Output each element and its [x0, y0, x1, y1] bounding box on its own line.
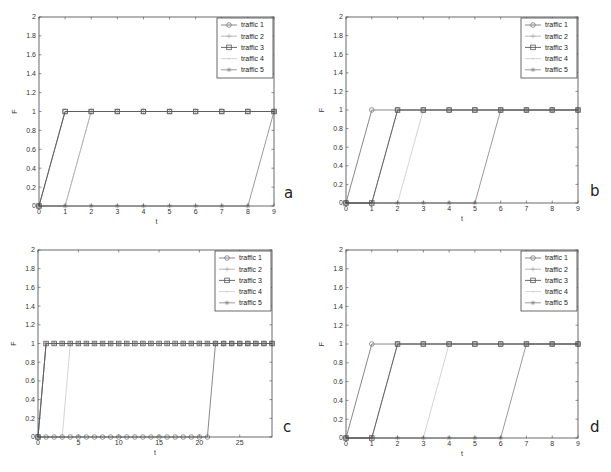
series-line	[38, 344, 272, 438]
x-tick-label: 20	[195, 439, 203, 446]
series-traffic-5	[344, 342, 581, 441]
dot-marker-icon	[532, 58, 534, 60]
x-tick-label: 5	[473, 205, 477, 212]
x-tick-label: 4	[447, 440, 451, 447]
x-tick-label: 10	[115, 439, 123, 446]
x-tick-label: 6	[499, 440, 503, 447]
y-tick-label: 0.4	[333, 397, 343, 404]
y-tick-label: 0.2	[333, 416, 343, 423]
y-tick-label: 1.2	[333, 88, 343, 95]
x-tick-label: 7	[220, 208, 224, 215]
x-tick-label: 6	[499, 205, 503, 212]
legend-label: traffic 5	[241, 66, 264, 73]
series-traffic-2	[344, 342, 581, 441]
dot-marker-icon	[228, 58, 230, 60]
x-tick-label: 9	[576, 440, 580, 447]
dot-marker-icon	[226, 291, 228, 293]
x-tick-label: 3	[421, 440, 425, 447]
series-traffic-3	[344, 342, 581, 441]
series-traffic-3	[36, 341, 275, 439]
series-line	[39, 112, 274, 207]
y-tick-label: 1.8	[26, 32, 36, 39]
y-tick-label: 0	[339, 199, 343, 206]
series-line	[38, 344, 272, 438]
legend-label: traffic 5	[545, 66, 568, 73]
x-tick-label: 2	[89, 208, 93, 215]
legend-label: traffic 4	[545, 288, 568, 295]
x-axis-label: t	[156, 218, 158, 225]
legend-label: traffic 3	[545, 44, 568, 51]
x-tick-label: 0	[36, 439, 40, 446]
series-line	[38, 344, 272, 438]
x-tick-label: 0	[37, 208, 41, 215]
y-tick-label: 0.8	[26, 127, 36, 134]
y-tick-label: 0.6	[25, 377, 35, 384]
y-tick-label: 1.4	[333, 69, 343, 76]
legend: traffic 1traffic 2traffic 3traffic 4traf…	[215, 251, 271, 311]
x-tick-label: 4	[141, 208, 145, 215]
legend-label: traffic 1	[545, 254, 568, 261]
chart-panel-a: 012345678900.20.40.60.811.21.41.61.82tFt…	[11, 13, 293, 225]
series-traffic-5	[36, 341, 275, 439]
y-tick-label: 0.4	[25, 396, 35, 403]
panel-letter: b	[590, 182, 600, 200]
series-traffic-1	[344, 342, 581, 441]
y-tick-label: 1.8	[333, 32, 343, 39]
series-line	[346, 110, 578, 203]
y-tick-label: 1	[32, 108, 36, 115]
y-tick-label: 2	[339, 13, 343, 20]
legend-label: traffic 3	[545, 277, 568, 284]
x-tick-label: 2	[396, 205, 400, 212]
series-traffic-3	[344, 108, 581, 206]
legend-label: traffic 5	[239, 299, 262, 306]
x-tick-label: 3	[115, 208, 119, 215]
chart-panel-b: 012345678900.20.40.60.811.21.41.61.82tFt…	[318, 13, 600, 222]
x-tick-label: 4	[447, 205, 451, 212]
y-tick-label: 0.2	[333, 181, 343, 188]
y-tick-label: 0.2	[25, 415, 35, 422]
x-tick-label: 2	[396, 440, 400, 447]
legend-label: traffic 1	[239, 254, 262, 261]
x-tick-label: 1	[63, 208, 67, 215]
series-traffic-5	[344, 108, 581, 206]
y-tick-label: 1.6	[26, 51, 36, 58]
x-axis-label: t	[154, 449, 156, 456]
y-tick-label: 0.6	[26, 146, 36, 153]
x-axis-label: t	[461, 215, 463, 222]
legend-label: traffic 1	[241, 21, 264, 28]
y-tick-label: 2	[31, 246, 35, 253]
legend-label: traffic 2	[241, 33, 264, 40]
series-line	[346, 110, 578, 203]
y-tick-label: 1.6	[25, 284, 35, 291]
series-line	[39, 112, 274, 207]
series-line	[346, 344, 578, 438]
legend-label: traffic 4	[239, 288, 262, 295]
chart-panel-c: 051015202500.20.40.60.811.21.41.61.82tFt…	[10, 246, 291, 456]
series-traffic-4	[37, 343, 273, 438]
y-tick-label: 1.4	[25, 303, 35, 310]
y-tick-label: 1.6	[333, 284, 343, 291]
series-traffic-1	[37, 109, 277, 208]
x-tick-label: 1	[370, 440, 374, 447]
figure-canvas: 012345678900.20.40.60.811.21.41.61.82tFt…	[0, 0, 611, 472]
series-traffic-2	[37, 109, 277, 208]
legend: traffic 1traffic 2traffic 3traffic 4traf…	[521, 18, 577, 78]
x-tick-label: 8	[246, 208, 250, 215]
legend-label: traffic 4	[545, 55, 568, 62]
x-tick-label: 9	[576, 205, 580, 212]
x-axis-label: t	[461, 450, 463, 457]
y-tick-label: 2	[339, 246, 343, 253]
series-line	[346, 110, 578, 203]
y-tick-label: 1.2	[333, 322, 343, 329]
y-tick-label: 1.6	[333, 51, 343, 58]
y-tick-label: 1	[339, 340, 343, 347]
x-tick-label: 6	[194, 208, 198, 215]
series-line	[346, 344, 578, 438]
legend-label: traffic 5	[545, 299, 568, 306]
chart-panel-d: 012345678900.20.40.60.811.21.41.61.82tFt…	[318, 246, 600, 457]
panel-letter: d	[590, 418, 600, 436]
x-tick-label: 8	[550, 440, 554, 447]
x-tick-label: 0	[344, 205, 348, 212]
series-line	[38, 344, 272, 438]
y-tick-label: 1.4	[333, 303, 343, 310]
